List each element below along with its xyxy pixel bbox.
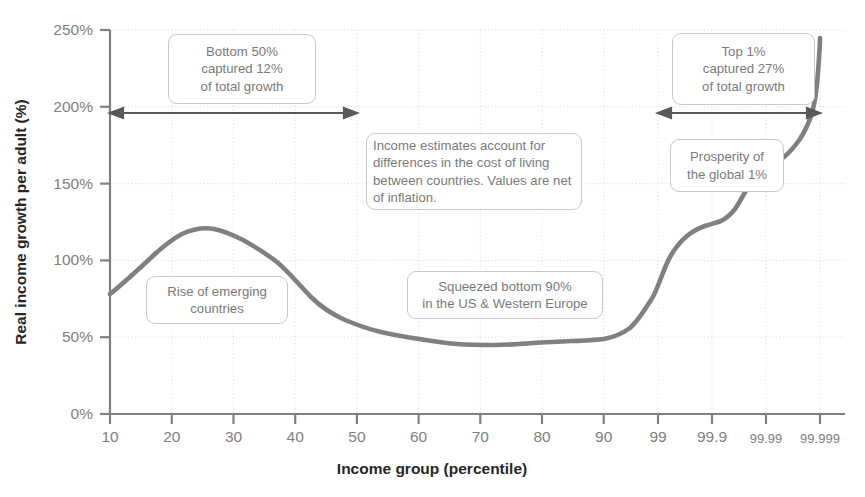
x-tick-label-99: 99 — [649, 428, 666, 445]
x-tick-label-70: 70 — [472, 428, 490, 445]
x-tick-label-99-99: 99.99 — [750, 431, 783, 446]
y-axis-title: Real income growth per adult (%) — [12, 99, 29, 344]
top-1-span-arrow — [658, 108, 820, 118]
bottom-50-callout: Bottom 50% captured 12% of total growth — [168, 34, 316, 104]
x-tick-label-99-9: 99.9 — [697, 428, 727, 445]
x-tick-label-10: 10 — [101, 428, 119, 445]
x-tick-label-40: 40 — [287, 428, 305, 445]
x-tick-label-99-999: 99.999 — [800, 431, 840, 446]
x-tick-label-30: 30 — [225, 428, 243, 445]
y-tick-label-200: 200% — [53, 98, 93, 115]
elephant-curve-chart: 250% 200% 150% 100% 50% 0% 10 20 30 40 5… — [0, 0, 865, 497]
x-tick-label-50: 50 — [348, 428, 366, 445]
y-tick-label-100: 100% — [53, 251, 93, 268]
x-tick-label-20: 20 — [163, 428, 181, 445]
x-tick-label-90: 90 — [595, 428, 613, 445]
prosperity-callout: Prosperity of the global 1% — [670, 139, 784, 192]
top-1-callout: Top 1% captured 27% of total growth — [672, 33, 815, 105]
y-axis-ticks — [100, 30, 110, 414]
y-tick-label-0: 0% — [71, 405, 94, 422]
emerging-countries-callout: Rise of emerging countries — [146, 276, 288, 324]
y-tick-label-50: 50% — [62, 328, 93, 345]
y-tick-label-250: 250% — [53, 21, 93, 38]
methodology-note: Income estimates account for differences… — [366, 133, 582, 210]
x-axis-title: Income group (percentile) — [337, 460, 527, 477]
x-tick-label-80: 80 — [533, 428, 551, 445]
y-tick-label-150: 150% — [53, 175, 93, 192]
squeezed-bottom-90-callout: Squeezed bottom 90% in the US & Western … — [407, 271, 603, 319]
x-axis-ticks — [110, 414, 820, 424]
x-tick-label-60: 60 — [410, 428, 428, 445]
